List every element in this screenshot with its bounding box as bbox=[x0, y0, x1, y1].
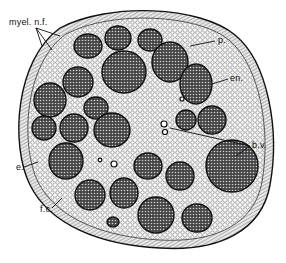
label-perineurium: p. bbox=[218, 36, 226, 45]
label-myelinated-nerve-fibers: myel. n.f. bbox=[9, 18, 48, 27]
label-epineurium: e. bbox=[16, 163, 24, 172]
nerve-cross-section-figure bbox=[0, 0, 286, 263]
label-blood-vessels: b.v. bbox=[252, 141, 267, 150]
label-fat-cells: f.c. bbox=[40, 205, 53, 214]
label-endoneurium: en. bbox=[230, 74, 243, 83]
